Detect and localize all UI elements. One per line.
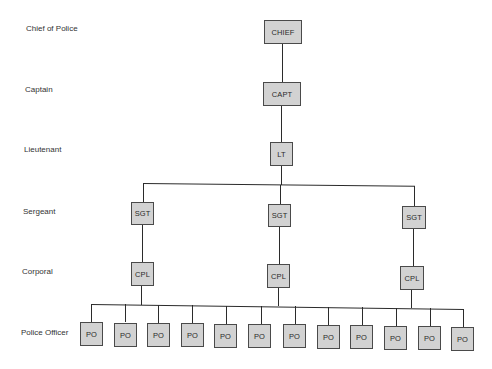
connector-bus-po4 [192, 305, 193, 323]
node-police-officer: PO [451, 327, 474, 351]
node-corporal: CPL [131, 262, 154, 286]
connector-capt-lt [281, 106, 282, 142]
node-police-officer: PO [114, 323, 137, 347]
node-lieutenant: LT [270, 142, 293, 166]
node-police-officer: PO [80, 322, 103, 346]
connector-bus-po11 [430, 308, 431, 326]
connector-bus-po2 [125, 304, 126, 322]
node-police-officer: PO [283, 324, 306, 348]
connector-bus-po8 [328, 307, 329, 325]
connector-bus-po1 [91, 304, 92, 322]
connector-sgt1-cpl1 [142, 225, 143, 262]
node-police-officer: PO [214, 324, 237, 348]
node-sergeant: SGT [268, 204, 291, 227]
node-sergeant: SGT [131, 202, 154, 225]
node-chief: CHIEF [264, 20, 302, 44]
connector-bus-po5 [226, 306, 227, 324]
connector-bus-po9 [362, 307, 363, 325]
connector-bus-po3 [158, 305, 159, 323]
node-police-officer: PO [317, 325, 340, 349]
connector-bus-sgt2 [280, 185, 281, 204]
connector-bus-po6 [261, 306, 262, 324]
connector-sgt2-cpl2 [279, 227, 280, 264]
node-corporal: CPL [267, 264, 290, 288]
connector-bus-sgt3 [414, 186, 415, 206]
connector-cpl3-bus [411, 290, 412, 308]
node-police-officer: PO [418, 326, 441, 350]
rank-label-police-officer: Police Officer [21, 328, 68, 337]
connector-lt-bus [281, 166, 282, 185]
node-captain: CAPT [263, 82, 301, 106]
node-police-officer: PO [350, 325, 373, 349]
connector-bus-po10 [396, 308, 397, 326]
connector-chief-capt [282, 44, 283, 82]
connector-bus-po7 [295, 306, 296, 324]
node-sergeant: SGT [402, 206, 426, 229]
rank-label-chief: Chief of Police [26, 24, 78, 33]
node-police-officer: PO [384, 326, 407, 350]
connector-cpl2-bus [278, 288, 279, 306]
rank-label-corporal: Corporal [22, 267, 53, 276]
rank-label-lieutenant: Lieutenant [24, 145, 61, 154]
node-police-officer: PO [147, 323, 170, 347]
node-police-officer: PO [181, 323, 204, 347]
rank-label-sergeant: Sergeant [23, 207, 55, 216]
connector-bus-sgt1 [143, 183, 144, 202]
connector-cpl1-bus [141, 286, 142, 305]
connector-sgt3-cpl3 [413, 229, 414, 266]
connector-bus-po12 [463, 309, 464, 327]
rank-label-captain: Captain [25, 85, 53, 94]
node-corporal: CPL [400, 266, 424, 290]
node-police-officer: PO [248, 324, 271, 348]
sergeant-bus-line [143, 183, 415, 187]
